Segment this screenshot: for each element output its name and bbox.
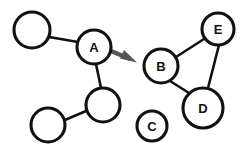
node-label-B: B	[156, 59, 165, 74]
node-group: A B E D C	[14, 12, 234, 142]
node-E[interactable]: E	[202, 13, 234, 45]
node-circle[interactable]	[31, 108, 65, 142]
node-unlabeled-mid-bottom[interactable]	[86, 88, 120, 122]
node-A[interactable]: A	[77, 30, 111, 64]
node-B[interactable]: B	[144, 49, 178, 83]
graph-svg: A B E D C	[0, 0, 248, 151]
node-C[interactable]: C	[137, 111, 167, 141]
edge-B-E	[176, 39, 204, 57]
node-D[interactable]: D	[183, 88, 223, 128]
edge-B-D	[170, 81, 189, 93]
node-circle[interactable]	[14, 12, 50, 48]
graph-diagram-canvas: A B E D C	[0, 0, 248, 151]
node-unlabeled-bottom-left[interactable]	[31, 108, 65, 142]
edge-E-D	[208, 45, 219, 88]
node-label-E: E	[214, 22, 223, 37]
node-label-C: C	[147, 119, 157, 134]
node-unlabeled-top-left[interactable]	[14, 12, 50, 48]
edge-A-node2	[96, 64, 101, 88]
edge-node2-node3	[65, 111, 86, 120]
node-circle[interactable]	[86, 88, 120, 122]
node-label-D: D	[198, 101, 207, 116]
edge-node1-A	[49, 37, 78, 42]
arrow-A-to-B-group	[111, 50, 137, 63]
node-label-A: A	[89, 40, 99, 55]
